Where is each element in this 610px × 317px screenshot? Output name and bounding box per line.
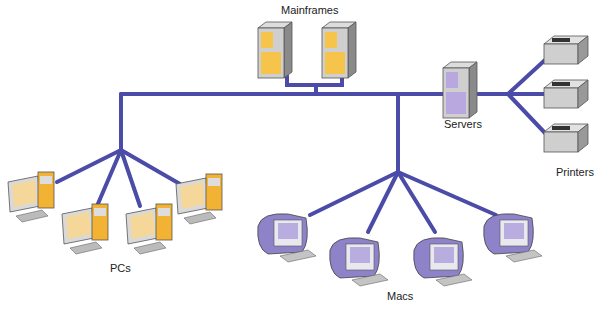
mac-group <box>258 214 542 286</box>
mainframe-group <box>258 22 356 78</box>
printer-1 <box>544 36 588 64</box>
mac-2 <box>330 238 388 286</box>
pc-2 <box>62 204 108 254</box>
pc-4 <box>176 174 222 224</box>
mac-4 <box>484 214 542 262</box>
printer-2 <box>544 80 588 108</box>
diagram-canvas <box>0 0 610 317</box>
macs-label: Macs <box>387 290 413 302</box>
printer-3 <box>544 124 588 152</box>
mac-3 <box>414 238 472 286</box>
printers-label: Printers <box>556 166 594 178</box>
pcs-label: PCs <box>110 262 131 274</box>
mainframe-1 <box>258 22 292 78</box>
mac-1 <box>258 214 316 262</box>
mainframes-label: Mainframes <box>281 4 338 16</box>
pc-group <box>8 172 222 254</box>
pc-1 <box>8 172 54 222</box>
pc-3 <box>126 204 172 254</box>
printer-group <box>544 36 588 152</box>
network-diagram: Mainframes Servers Printers PCs Macs <box>0 0 610 317</box>
mainframe-2 <box>322 22 356 78</box>
servers-label: Servers <box>444 118 482 130</box>
server <box>443 62 477 118</box>
